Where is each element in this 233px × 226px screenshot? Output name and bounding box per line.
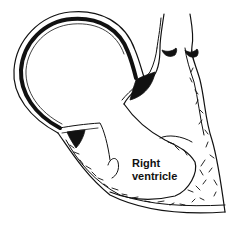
right-ventricle-wall (110, 104, 196, 199)
right-ventricle-label: Right ventricle (132, 157, 177, 183)
pulmonary-trunk-right-wall (190, 14, 225, 212)
label-line-1: Right (132, 157, 177, 170)
label-line-2: ventricle (132, 170, 177, 183)
aortic-chamber-outer-wall (14, 12, 145, 133)
heart-diagram: Right ventricle (0, 0, 233, 226)
aortic-chamber-inner-wall (21, 19, 136, 128)
papillary-muscle (108, 158, 119, 178)
heart-drawing (0, 0, 233, 226)
valve-left-wall (60, 123, 110, 160)
pulmonary-cusp-left (162, 48, 177, 56)
